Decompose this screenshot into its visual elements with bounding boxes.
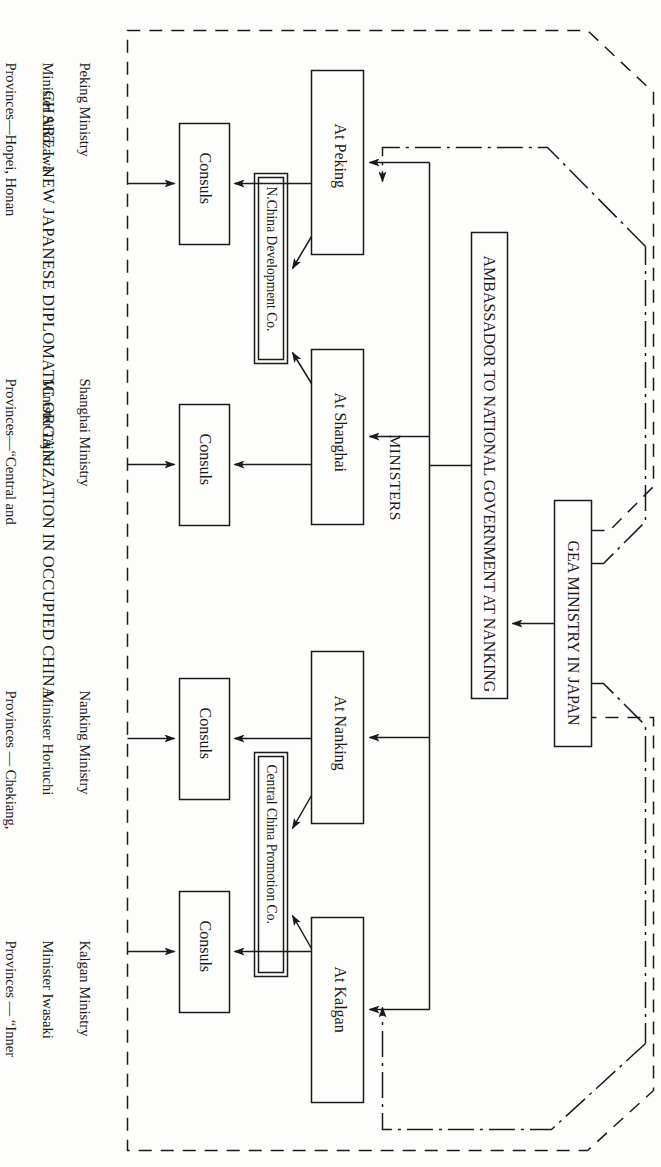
caption-peking: Peking Ministry Minister Shiozawa Provin… (0, 40, 112, 216)
caption-kalgan: Kalgan Ministry Minister Iwasaki Provinc… (0, 918, 112, 1096)
caption-shanghai: Shanghai Ministry Minister Tajiro Provin… (0, 356, 112, 524)
caption-nanking-line2: Minister Horiuchi (39, 690, 55, 795)
box-label-gea: GEA MINISTRY IN JAPAN (562, 540, 581, 725)
box-label-cchina-prom-co: Central China Promotion Co. (262, 764, 278, 923)
caption-shanghai-line3: Provinces—“Central and (2, 378, 18, 524)
box-label-consuls-nanking: Consuls (194, 707, 213, 759)
box-label-at-peking: At Peking (329, 123, 348, 187)
caption-kalgan-line3: Provinces — “Inner (2, 940, 18, 1057)
box-label-at-shanghai: At Shanghai (329, 392, 348, 472)
caption-shanghai-line2: Minister Tajiro (39, 378, 55, 465)
edge-nanking-promco (292, 795, 311, 828)
box-label-consuls-peking: Consuls (194, 152, 213, 204)
caption-peking-line2: Minister Shiozawa (39, 62, 55, 172)
diagram-canvas: CHART I. NEW JAPANESE DIPLOMATIC ORGANIZ… (0, 0, 661, 1167)
caption-kalgan-line2: Minister Iwasaki (39, 940, 55, 1039)
edge-gea-direct-right-run (591, 683, 645, 1043)
box-label-ambassador: AMBASSADOR TO NATIONAL GOVERNMENT AT NAN… (478, 255, 497, 692)
box-label-at-kalgan: At Kalgan (329, 966, 348, 1032)
caption-nanking: Nanking Ministry Minister Horiuchi Provi… (0, 668, 112, 829)
caption-nanking-line3: Provinces — Chekiang, (2, 690, 18, 829)
caption-peking-line3: Provinces—Hopei, Honan (2, 62, 18, 216)
caption-kalgan-line1: Kalgan Ministry (76, 940, 92, 1036)
caption-peking-line1: Peking Ministry (76, 62, 92, 156)
edge-gea-direct-kalgan (382, 1007, 645, 1129)
edge-gea-direct-left-run (591, 246, 645, 563)
chart-page: CHART I. NEW JAPANESE DIPLOMATIC ORGANIZ… (0, 0, 661, 1167)
caption-shanghai-line1: Shanghai Ministry (76, 378, 92, 486)
edge-kalgan-promco (292, 915, 311, 948)
ministers-group-label: MINISTERS (385, 434, 403, 520)
caption-nanking-line1: Nanking Ministry (76, 690, 92, 794)
box-label-consuls-shanghai: Consuls (194, 433, 213, 485)
box-label-at-nanking: At Nanking (329, 695, 348, 770)
box-label-consuls-kalgan: Consuls (194, 920, 213, 972)
edge-shanghai-devco (292, 352, 311, 383)
edge-peking-devco (292, 236, 311, 268)
box-label-nchina-dev-co: N.China Development Co. (262, 186, 278, 331)
